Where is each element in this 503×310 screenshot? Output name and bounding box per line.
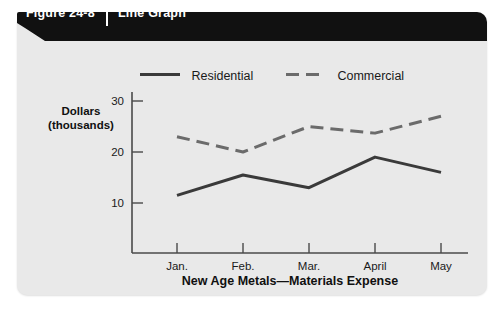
series-line-residential <box>177 157 441 195</box>
y-tick-labels: 102030 <box>111 95 124 209</box>
x-tick-label: Mar. <box>298 260 320 272</box>
x-tick-label: Feb. <box>231 260 254 272</box>
y-tick-label: 30 <box>111 95 124 107</box>
chart-title: New Age Metals—Materials Expense <box>120 274 460 288</box>
y-tick-label: 10 <box>111 197 124 209</box>
series-line-commercial <box>177 116 441 152</box>
x-tick-labels: Jan.Feb.Mar.AprilMay <box>166 260 452 272</box>
x-tick-label: Jan. <box>166 260 188 272</box>
x-axis-ticks <box>177 243 441 253</box>
y-tick-label: 20 <box>111 146 124 158</box>
chart-plot-area: 102030 Jan.Feb.Mar.AprilMay <box>0 0 503 310</box>
figure-container: Figure 24-8 Line Graph Residential Comme… <box>0 0 503 310</box>
x-tick-label: May <box>430 260 452 272</box>
line-chart-svg: 102030 Jan.Feb.Mar.AprilMay <box>0 0 503 310</box>
x-tick-label: April <box>363 260 386 272</box>
y-axis-ticks <box>132 101 143 203</box>
